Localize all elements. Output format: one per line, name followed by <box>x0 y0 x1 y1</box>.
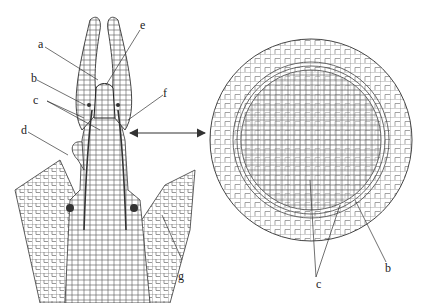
label-g: g <box>178 270 184 282</box>
stem-cross-section <box>210 39 412 241</box>
label-c: c <box>33 94 38 106</box>
label-a: a <box>38 38 43 50</box>
label-b: b <box>31 72 37 84</box>
shoot-apex-section <box>15 17 195 303</box>
label-c-cross-section: c <box>316 278 321 290</box>
label-f: f <box>163 87 167 99</box>
label-e: e <box>140 19 145 31</box>
label-d: d <box>21 124 27 136</box>
diagram-canvas <box>0 0 429 303</box>
label-b-cross-section: b <box>385 262 391 274</box>
